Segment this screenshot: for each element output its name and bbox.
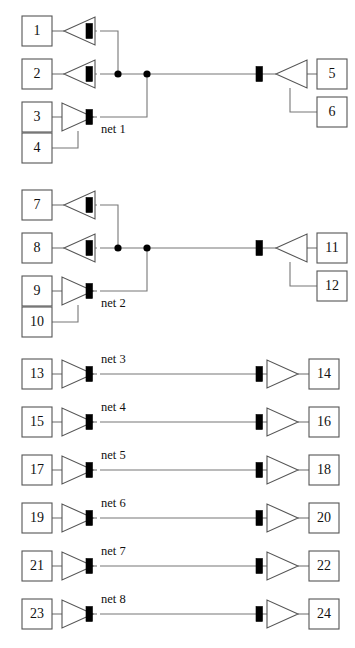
net-group-2: 7 8 9 10 11 12 net 2 bbox=[22, 190, 347, 337]
port-terminal[interactable] bbox=[86, 67, 93, 82]
port-terminal[interactable] bbox=[256, 463, 263, 478]
cell-14[interactable]: 14 bbox=[309, 359, 339, 389]
cell-24[interactable]: 24 bbox=[309, 599, 339, 629]
cell-2[interactable]: 2 bbox=[22, 59, 52, 89]
junction-dot bbox=[114, 244, 121, 251]
port-terminal[interactable] bbox=[86, 415, 93, 430]
port-terminal[interactable] bbox=[86, 607, 93, 622]
net-1-wires bbox=[52, 31, 317, 148]
cell-11[interactable]: 11 bbox=[317, 233, 347, 263]
cell-label: 24 bbox=[317, 606, 331, 621]
cell-23[interactable]: 23 bbox=[22, 599, 52, 629]
cell-label: 12 bbox=[325, 278, 339, 293]
cell-label: 10 bbox=[30, 314, 44, 329]
cell-label: 1 bbox=[34, 23, 41, 38]
cell-5[interactable]: 5 bbox=[317, 59, 347, 89]
cell-3[interactable]: 3 bbox=[22, 102, 52, 132]
cell-21[interactable]: 21 bbox=[22, 551, 52, 581]
buffer-right-pointing bbox=[267, 360, 298, 388]
cell-16[interactable]: 16 bbox=[309, 407, 339, 437]
cell-label: 2 bbox=[34, 66, 41, 81]
cell-label: 11 bbox=[325, 240, 338, 255]
cell-20[interactable]: 20 bbox=[309, 503, 339, 533]
cell-18[interactable]: 18 bbox=[309, 455, 339, 485]
cell-8[interactable]: 8 bbox=[22, 233, 52, 263]
cell-10[interactable]: 10 bbox=[22, 307, 52, 337]
port-terminal[interactable] bbox=[86, 559, 93, 574]
cell-label: 7 bbox=[34, 197, 41, 212]
cell-13[interactable]: 13 bbox=[22, 359, 52, 389]
port-terminal[interactable] bbox=[256, 511, 263, 526]
wire-port3-to-junctionB bbox=[100, 74, 147, 117]
port-terminal[interactable] bbox=[86, 284, 93, 299]
port-terminal[interactable] bbox=[86, 198, 93, 213]
cell-label: 19 bbox=[30, 510, 44, 525]
cell-17[interactable]: 17 bbox=[22, 455, 52, 485]
wire-port7-to-junctionA bbox=[100, 205, 118, 246]
buffer-left-pointing bbox=[276, 60, 307, 88]
net-group-6: 19 20 net 6 bbox=[22, 496, 339, 533]
cell-label: 3 bbox=[34, 109, 41, 124]
junction-dot bbox=[143, 70, 150, 77]
cell-label: 16 bbox=[317, 414, 331, 429]
cell-label: 23 bbox=[30, 606, 44, 621]
cell-22[interactable]: 22 bbox=[309, 551, 339, 581]
port-terminal[interactable] bbox=[256, 367, 263, 382]
cell-label: 6 bbox=[329, 104, 336, 119]
port-terminal[interactable] bbox=[86, 110, 93, 125]
net-label-net-5: net 5 bbox=[101, 448, 126, 462]
wire-port1-to-junctionA bbox=[100, 31, 118, 72]
cell-label: 4 bbox=[34, 140, 41, 155]
cell-7[interactable]: 7 bbox=[22, 190, 52, 220]
cell-19[interactable]: 19 bbox=[22, 503, 52, 533]
buffer-right-pointing bbox=[267, 600, 298, 628]
circuit-diagram: 1 2 3 4 5 6 net 1 bbox=[0, 0, 355, 648]
cell-9[interactable]: 9 bbox=[22, 276, 52, 306]
cell-6[interactable]: 6 bbox=[317, 97, 347, 127]
junction-dot bbox=[114, 70, 121, 77]
cell-15[interactable]: 15 bbox=[22, 407, 52, 437]
cell-label: 22 bbox=[317, 558, 331, 573]
wire-cell10-to-buffer9 bbox=[52, 305, 78, 322]
port-terminal[interactable] bbox=[86, 367, 93, 382]
net-2-wires bbox=[52, 205, 317, 322]
wire-port9-to-junctionB bbox=[100, 248, 147, 291]
cell-label: 13 bbox=[30, 366, 44, 381]
cell-label: 9 bbox=[34, 283, 41, 298]
port-terminal[interactable] bbox=[86, 511, 93, 526]
net-label-net-6: net 6 bbox=[101, 496, 126, 510]
net-group-1: 1 2 3 4 5 6 net 1 bbox=[22, 16, 347, 163]
buffer-left-pointing bbox=[276, 234, 307, 262]
net-group-7: 21 22 net 7 bbox=[22, 544, 339, 581]
net-group-3: 13 14 net 3 bbox=[22, 352, 339, 389]
buffer-right-pointing bbox=[267, 408, 298, 436]
cell-12[interactable]: 12 bbox=[317, 271, 347, 301]
port-terminal[interactable] bbox=[86, 241, 93, 256]
net-group-4: 15 16 net 4 bbox=[22, 400, 339, 437]
cell-label: 14 bbox=[317, 366, 331, 381]
wire-buffer5-to-cell6 bbox=[290, 88, 317, 112]
net-group-8: 23 24 net 8 bbox=[22, 592, 339, 629]
wire-cell4-to-buffer3 bbox=[52, 131, 78, 148]
port-terminal[interactable] bbox=[86, 24, 93, 39]
buffer-right-pointing bbox=[267, 456, 298, 484]
cell-label: 5 bbox=[329, 66, 336, 81]
cell-label: 21 bbox=[30, 558, 44, 573]
cell-label: 17 bbox=[30, 462, 44, 477]
port-terminal[interactable] bbox=[256, 241, 263, 256]
net-label-net-7: net 7 bbox=[101, 544, 126, 558]
port-terminal[interactable] bbox=[256, 415, 263, 430]
cell-label: 8 bbox=[34, 240, 41, 255]
net-group-5: 17 18 net 5 bbox=[22, 448, 339, 485]
port-terminal[interactable] bbox=[256, 67, 263, 82]
cell-4[interactable]: 4 bbox=[22, 133, 52, 163]
buffer-right-pointing bbox=[267, 552, 298, 580]
cell-1[interactable]: 1 bbox=[22, 16, 52, 46]
cell-label: 15 bbox=[30, 414, 44, 429]
cell-label: 20 bbox=[317, 510, 331, 525]
circuit-canvas: 1 2 3 4 5 6 net 1 bbox=[0, 0, 355, 648]
port-terminal[interactable] bbox=[256, 607, 263, 622]
port-terminal[interactable] bbox=[256, 559, 263, 574]
port-terminal[interactable] bbox=[86, 463, 93, 478]
net-label-net-8: net 8 bbox=[101, 592, 126, 606]
